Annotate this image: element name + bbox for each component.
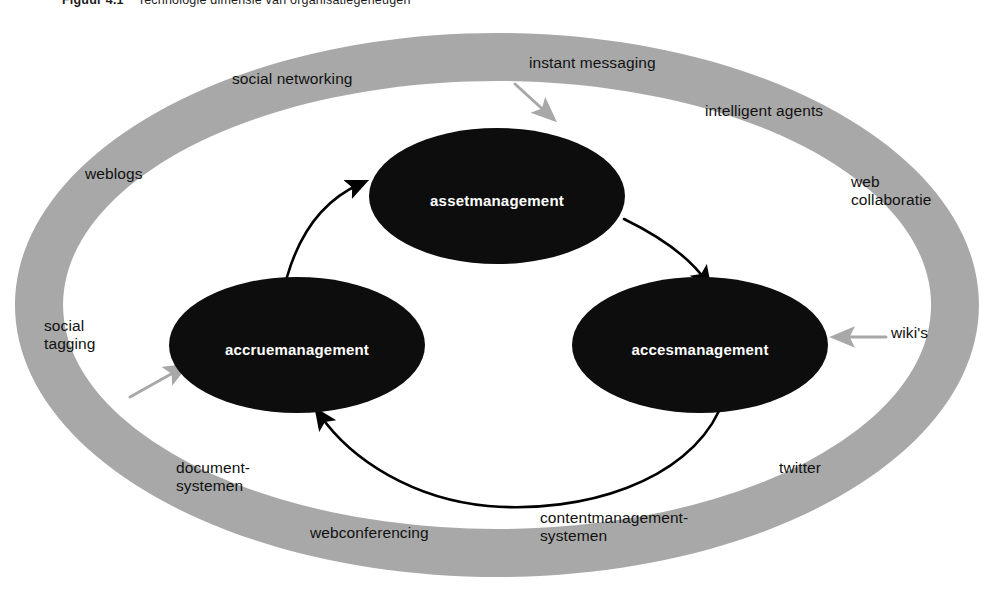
node-group: assetmanagement accruemanagement accesma… <box>169 128 828 413</box>
social-tagging-arrow <box>130 369 180 397</box>
outer-ring <box>15 33 979 577</box>
node-accesmanagement-label: accesmanagement <box>631 341 768 358</box>
node-assetmanagement-label: assetmanagement <box>430 192 564 209</box>
ring-label-wikis: wiki's <box>891 324 928 342</box>
ring-label-twitter: twitter <box>779 459 821 477</box>
ring-label-social-tagging: social tagging <box>44 317 96 353</box>
ring-label-webconferencing: webconferencing <box>310 524 429 542</box>
ring-label-intelligent-agents: intelligent agents <box>705 102 823 120</box>
instant-messaging-arrow <box>515 84 549 115</box>
ring-label-web-collaboratie: web collaboratie <box>851 173 931 209</box>
node-accruemanagement-label: accruemanagement <box>225 341 369 358</box>
ring-label-weblogs: weblogs <box>85 165 143 183</box>
organizational-memory-diagram: assetmanagement accruemanagement accesma… <box>0 0 995 591</box>
cycle-arrow-accrue-to-asset <box>287 184 360 277</box>
cycle-arrow-acces-to-accrue <box>320 411 719 507</box>
ring-label-social-networking: social networking <box>232 70 353 88</box>
cycle-arrow-asset-to-acces <box>624 219 706 281</box>
ring-label-contentmanagement-systemen: contentmanagement- systemen <box>540 509 688 545</box>
ring-label-document-systemen: document- systemen <box>176 459 250 495</box>
figure-page: Figuur 4.1Technologie dimensie van organ… <box>0 0 995 591</box>
ring-label-instant-messaging: instant messaging <box>529 54 656 72</box>
